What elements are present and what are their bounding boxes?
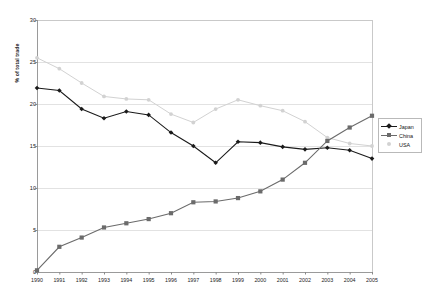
marker-china — [124, 221, 128, 225]
marker-china — [370, 114, 374, 118]
series-line-china — [37, 116, 372, 271]
marker-japan — [124, 109, 129, 114]
marker-china — [303, 161, 307, 165]
marker-china — [191, 200, 195, 204]
marker-china — [80, 235, 84, 239]
marker-japan — [303, 147, 308, 152]
legend-key-japan-icon — [381, 122, 397, 131]
marker-japan — [280, 145, 285, 150]
legend-marker-swatch — [387, 133, 391, 137]
marker-japan — [258, 140, 263, 145]
marker-usa — [102, 95, 106, 99]
marker-usa — [281, 109, 285, 113]
marker-usa — [370, 144, 374, 148]
marker-usa — [348, 142, 352, 146]
marker-china — [258, 189, 262, 193]
marker-china — [348, 125, 352, 129]
line-chart: % of total trade 051015202530 1990199119… — [0, 0, 426, 306]
marker-china — [102, 225, 106, 229]
marker-usa — [191, 121, 195, 125]
legend-label: Japan — [397, 124, 414, 130]
marker-usa — [236, 98, 240, 102]
marker-japan — [35, 86, 40, 91]
marker-usa — [35, 56, 39, 60]
marker-japan — [370, 156, 375, 161]
series-line-usa — [37, 58, 372, 146]
marker-china — [236, 196, 240, 200]
marker-usa — [258, 104, 262, 108]
chart-legend: JapanChinaUSA — [378, 118, 422, 153]
marker-japan — [347, 148, 352, 153]
legend-label: USA — [397, 142, 410, 148]
marker-china — [214, 199, 218, 203]
legend-item-china: China — [381, 131, 418, 140]
marker-usa — [214, 107, 218, 111]
legend-item-japan: Japan — [381, 122, 418, 131]
legend-key-china-icon — [381, 131, 397, 140]
marker-china — [57, 245, 61, 249]
marker-china — [147, 217, 151, 221]
legend-key-usa-icon — [381, 140, 397, 149]
marker-china — [35, 268, 39, 272]
legend-marker-swatch — [386, 123, 392, 129]
marker-japan — [102, 116, 107, 121]
marker-china — [169, 211, 173, 215]
series-line-japan — [37, 88, 372, 163]
marker-usa — [57, 67, 61, 71]
marker-china — [281, 178, 285, 182]
marker-usa — [147, 98, 151, 102]
marker-usa — [124, 97, 128, 101]
legend-label: China — [397, 133, 413, 139]
marker-china — [325, 139, 329, 143]
legend-item-usa: USA — [381, 140, 418, 149]
plot-area — [0, 0, 426, 306]
marker-usa — [80, 81, 84, 85]
marker-usa — [169, 112, 173, 116]
marker-usa — [303, 120, 307, 124]
legend-marker-swatch — [387, 142, 391, 146]
